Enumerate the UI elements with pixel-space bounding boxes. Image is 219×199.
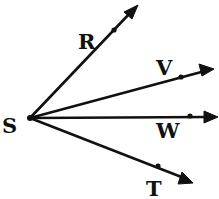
ray-sw-line	[30, 117, 209, 118]
rays-diagram: R V W T S	[0, 0, 219, 199]
label-r: R	[78, 29, 96, 54]
ray-sv-arrowhead	[199, 64, 214, 76]
ray-sw: W	[30, 111, 218, 143]
label-s: S	[2, 113, 17, 138]
point-r-marker	[111, 27, 116, 32]
point-v-marker	[178, 74, 183, 79]
point-w-marker	[187, 113, 192, 118]
point-t-marker	[155, 163, 160, 168]
ray-sw-arrowhead	[204, 111, 218, 123]
ray-sv: V	[30, 55, 214, 118]
vertex-s: S	[2, 113, 33, 138]
vertex-s-marker	[27, 115, 33, 121]
ray-st-arrowhead	[178, 172, 193, 184]
label-v: V	[155, 55, 173, 80]
label-t: T	[146, 176, 162, 199]
ray-sr-line	[30, 12, 131, 118]
ray-sr: R	[30, 5, 138, 118]
label-w: W	[155, 118, 180, 143]
